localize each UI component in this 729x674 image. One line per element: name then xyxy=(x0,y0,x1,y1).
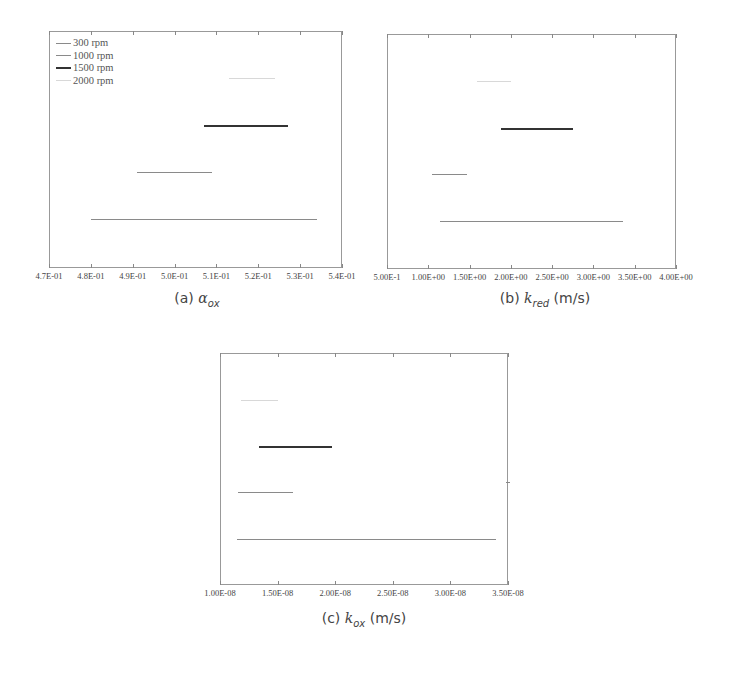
range-bar-2000-rpm xyxy=(477,81,511,82)
x-tick-label: 3.50E+00 xyxy=(618,272,651,282)
x-tick xyxy=(220,581,221,585)
x-tick xyxy=(387,265,388,269)
x-tick-top xyxy=(428,34,429,38)
x-tick-label: 4.9E-01 xyxy=(119,271,146,281)
x-tick-top xyxy=(387,34,388,38)
x-tick xyxy=(511,265,512,269)
plot-frame xyxy=(387,34,676,269)
x-tick-label: 4.00E+00 xyxy=(659,272,692,282)
range-bar-1000-rpm xyxy=(137,172,212,173)
x-tick-top xyxy=(635,34,636,38)
legend-label: 1000 rpm xyxy=(73,50,114,63)
legend-item: 2000 rpm xyxy=(56,75,114,88)
range-bar-1000-rpm xyxy=(432,174,468,175)
legend-line-swatch xyxy=(56,55,71,56)
x-tick-label: 1.50E+00 xyxy=(453,272,486,282)
x-tick xyxy=(216,264,217,268)
x-tick-top xyxy=(133,31,134,35)
x-tick xyxy=(49,264,50,268)
x-tick-top xyxy=(593,34,594,38)
range-bar-1500-rpm xyxy=(259,446,332,448)
x-tick-top xyxy=(49,31,50,35)
x-tick-label: 2.50E+00 xyxy=(535,272,568,282)
x-tick xyxy=(676,265,677,269)
x-tick-top xyxy=(258,31,259,35)
x-tick-top xyxy=(450,353,451,357)
x-tick-top xyxy=(470,34,471,38)
legend-line-swatch xyxy=(56,80,71,81)
x-tick-top xyxy=(278,353,279,357)
legend-label: 300 rpm xyxy=(73,37,108,50)
range-bar-1500-rpm xyxy=(501,128,573,130)
x-tick-label: 5.2E-01 xyxy=(245,271,272,281)
x-tick-label: 1.00E+00 xyxy=(412,272,445,282)
range-bar-1000-rpm xyxy=(238,492,292,493)
x-tick-top xyxy=(552,34,553,38)
x-tick xyxy=(470,265,471,269)
x-tick xyxy=(91,264,92,268)
caption-b: (b) kred (m/s) xyxy=(500,290,590,309)
right-edge-tick xyxy=(506,482,510,483)
range-bar-2000-rpm xyxy=(229,78,275,79)
x-tick-top xyxy=(342,31,343,35)
x-tick-top xyxy=(175,31,176,35)
x-tick-label: 5.00E-1 xyxy=(373,272,400,282)
legend-label: 2000 rpm xyxy=(73,75,114,88)
range-bar-1500-rpm xyxy=(204,125,288,127)
x-tick-label: 5.4E-01 xyxy=(328,271,355,281)
x-tick-label: 1.50E-08 xyxy=(262,588,293,598)
x-tick-top xyxy=(300,31,301,35)
legend-line-swatch xyxy=(56,67,71,69)
x-tick-label: 5.3E-01 xyxy=(287,271,314,281)
x-tick-top xyxy=(393,353,394,357)
x-tick-label: 4.7E-01 xyxy=(35,271,62,281)
x-tick-top xyxy=(335,353,336,357)
range-bar-300-rpm xyxy=(91,219,317,220)
x-tick xyxy=(428,265,429,269)
x-tick-label: 5.1E-01 xyxy=(203,271,230,281)
x-tick-top xyxy=(216,31,217,35)
legend-label: 1500 rpm xyxy=(73,62,114,75)
x-tick-label: 4.8E-01 xyxy=(77,271,104,281)
legend: 300 rpm1000 rpm1500 rpm2000 rpm xyxy=(56,37,114,87)
caption-c: (c) kox (m/s) xyxy=(322,610,407,629)
x-tick-top xyxy=(220,353,221,357)
x-tick-label: 2.00E-08 xyxy=(319,588,350,598)
x-tick-label: 3.50E-08 xyxy=(492,588,523,598)
legend-item: 1500 rpm xyxy=(56,62,114,75)
x-tick-label: 3.00E-08 xyxy=(435,588,466,598)
x-tick-label: 2.00E+00 xyxy=(494,272,527,282)
x-tick-top xyxy=(676,34,677,38)
x-tick xyxy=(175,264,176,268)
x-tick xyxy=(335,581,336,585)
x-tick xyxy=(300,264,301,268)
x-tick xyxy=(342,264,343,268)
x-tick xyxy=(393,581,394,585)
x-tick xyxy=(552,265,553,269)
range-bar-2000-rpm xyxy=(241,400,278,401)
legend-line-swatch xyxy=(56,43,71,44)
range-bar-300-rpm xyxy=(237,539,496,540)
x-tick xyxy=(635,265,636,269)
x-tick-label: 5.0E-01 xyxy=(161,271,188,281)
x-tick-top xyxy=(91,31,92,35)
plot-frame xyxy=(220,353,508,585)
x-tick-label: 2.50E-08 xyxy=(377,588,408,598)
legend-item: 1000 rpm xyxy=(56,50,114,63)
x-tick-top xyxy=(508,353,509,357)
x-tick xyxy=(258,264,259,268)
x-tick-top xyxy=(511,34,512,38)
legend-item: 300 rpm xyxy=(56,37,114,50)
x-tick xyxy=(133,264,134,268)
caption-a: (a) αox xyxy=(174,290,219,309)
x-tick xyxy=(450,581,451,585)
x-tick xyxy=(278,581,279,585)
x-tick xyxy=(593,265,594,269)
x-tick xyxy=(508,581,509,585)
x-tick-label: 3.00E+00 xyxy=(577,272,610,282)
x-tick-label: 1.00E-08 xyxy=(204,588,235,598)
range-bar-300-rpm xyxy=(440,221,623,222)
